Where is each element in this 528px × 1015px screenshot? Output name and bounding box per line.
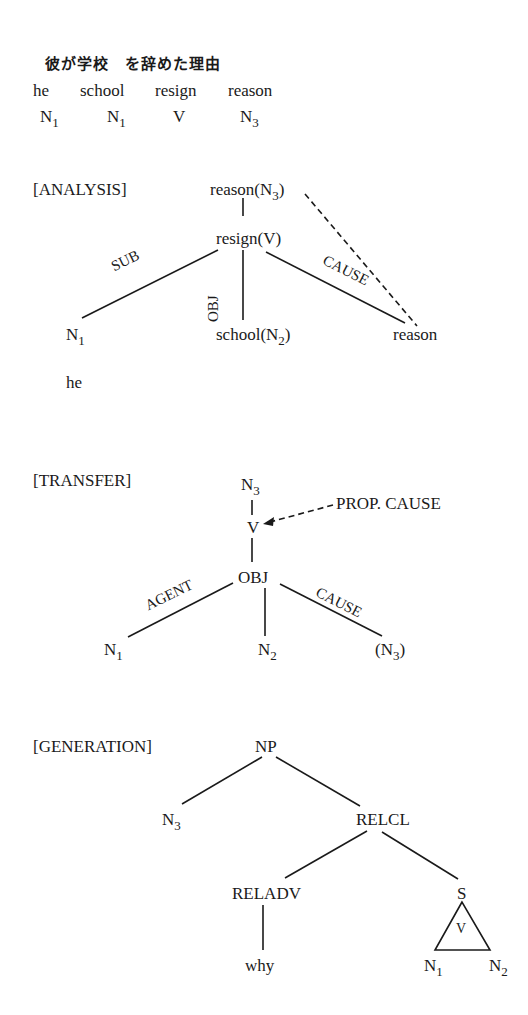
transfer-title: [TRANSFER] bbox=[33, 472, 131, 489]
analysis-verb: resign(V) bbox=[216, 230, 281, 247]
generation-relcl: RELCL bbox=[356, 811, 410, 828]
tag-n1-b: N1 bbox=[107, 108, 126, 125]
transfer-verb: V bbox=[247, 519, 259, 536]
tag-v: V bbox=[173, 108, 185, 125]
analysis-subject: N1 bbox=[66, 326, 85, 343]
generation-title: [GENERATION] bbox=[33, 738, 152, 755]
generation-why: why bbox=[245, 957, 274, 974]
diagram-lines bbox=[0, 0, 528, 1015]
edge-relcl-s bbox=[382, 832, 458, 879]
edge-relcl-reladv bbox=[285, 831, 367, 878]
gloss-reason: reason bbox=[228, 82, 272, 99]
edge-np-relcl bbox=[276, 757, 360, 806]
edge-np-n3 bbox=[182, 757, 262, 804]
edge-sub bbox=[82, 250, 218, 318]
transfer-root: N3 bbox=[241, 476, 260, 493]
gloss-he: he bbox=[33, 82, 49, 99]
tag-n3: N3 bbox=[240, 108, 259, 125]
analysis-subject-word: he bbox=[66, 374, 82, 391]
tag-n1-a: N1 bbox=[40, 108, 59, 125]
generation-reladv: RELADV bbox=[232, 885, 301, 902]
transfer-obj: OBJ bbox=[238, 569, 268, 586]
transfer-cause: (N3) bbox=[375, 641, 405, 658]
generation-s: S bbox=[457, 885, 466, 902]
gloss-resign: resign bbox=[155, 82, 197, 99]
transfer-prop-cause: PROP. CAUSE bbox=[336, 495, 441, 512]
dashed-prop-cause bbox=[270, 505, 333, 522]
generation-triangle-v: V bbox=[456, 922, 466, 936]
generation-n2: N2 bbox=[489, 957, 508, 974]
analysis-object: school(N2) bbox=[216, 326, 291, 343]
japanese-sentence: 彼が学校 を辞めた理由 bbox=[45, 57, 221, 72]
generation-n3: N3 bbox=[162, 811, 181, 828]
generation-np: NP bbox=[255, 738, 277, 755]
dashed-coreference bbox=[305, 194, 417, 326]
transfer-object: N2 bbox=[258, 641, 277, 658]
generation-n1: N1 bbox=[424, 957, 443, 974]
analysis-root: reason(N3) bbox=[210, 181, 284, 198]
arrowhead-icon bbox=[263, 517, 274, 526]
transfer-agent: N1 bbox=[104, 641, 123, 658]
edge-label-obj: OBJ bbox=[205, 295, 222, 322]
gloss-school: school bbox=[80, 82, 124, 99]
analysis-title: [ANALYSIS] bbox=[33, 181, 127, 198]
analysis-cause: reason bbox=[393, 326, 437, 343]
